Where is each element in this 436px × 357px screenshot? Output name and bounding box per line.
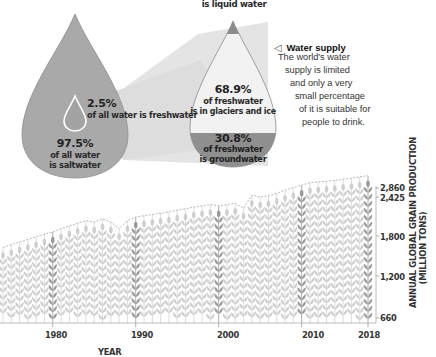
wheat-bar: [289, 188, 297, 323]
wheat-bar: [223, 205, 231, 323]
wheat-bar: [297, 185, 305, 323]
x-axis-label: YEAR: [98, 347, 121, 357]
wheat-bar: [32, 237, 40, 323]
y-axis-label-line1: ANNUAL GLOBAL GRAIN PRODUCTION: [408, 188, 418, 308]
wheat-bar: [24, 239, 32, 323]
saltwater-desc-2: is saltwater: [40, 161, 110, 171]
y-axis-label-line2: (MILLION TONS): [418, 188, 428, 308]
supply-line-1: The world's water: [278, 51, 350, 63]
y-tick-1200: 1,200: [380, 272, 405, 282]
x-tick-1980: 1980: [45, 330, 67, 340]
wheat-bar: [273, 193, 281, 323]
glaciers-desc-1: of freshwater: [186, 97, 280, 107]
wheat-bar: [281, 190, 289, 323]
x-tick-1990: 1990: [131, 330, 153, 340]
wheat-bar: [15, 242, 23, 323]
supply-line-2: supply is limited: [285, 64, 350, 76]
wheat-bar: [264, 196, 272, 323]
infographic-canvas: [0, 0, 436, 357]
grain-chart: [0, 176, 379, 327]
wheat-bar: [322, 181, 330, 323]
x-tick-2018: 2018: [358, 330, 380, 340]
wheat-bar: [339, 179, 347, 323]
wheat-bar: [98, 219, 106, 323]
supply-line-5: of it is suitable for: [299, 103, 371, 115]
wheat-bar: [181, 209, 189, 323]
wheat-bar: [165, 212, 173, 323]
wheat-bar: [57, 229, 65, 323]
wheat-bar: [190, 207, 198, 323]
wheat-bar: [173, 210, 181, 323]
wheat-bar: [140, 216, 148, 323]
wheat-bar: [306, 183, 314, 323]
y-axis-label: ANNUAL GLOBAL GRAIN PRODUCTION (MILLION …: [408, 188, 428, 308]
liquid-water-label: is liquid water: [196, 0, 272, 10]
wheat-bar: [73, 223, 81, 323]
wheat-bar: [107, 222, 115, 323]
supply-line-3: and only a very: [290, 77, 352, 89]
wheat-bar: [331, 180, 339, 323]
saltwater-pct: 97.5%: [40, 138, 110, 150]
wheat-bar: [49, 232, 57, 323]
wheat-bar: [239, 208, 247, 323]
glaciers-desc-2: is in glaciers and ice: [184, 107, 282, 117]
x-tick-2000: 2000: [217, 330, 239, 340]
y-tick-2860: 2,860: [380, 183, 405, 193]
wheat-bar: [115, 229, 123, 323]
supply-line-6: people to drink.: [302, 116, 365, 128]
wheat-bar: [206, 205, 214, 323]
wheat-bar: [256, 197, 264, 323]
wheat-bar: [40, 234, 48, 323]
x-tick-2010: 2010: [302, 330, 324, 340]
wheat-bar: [347, 178, 355, 323]
wheat-bar: [156, 213, 164, 323]
wheat-bar: [364, 176, 372, 323]
wheat-bar: [215, 206, 223, 323]
groundwater-desc-2: is groundwater: [190, 155, 276, 165]
wheat-bar: [82, 221, 90, 323]
wheat-bar: [132, 217, 140, 323]
wheat-bar: [7, 245, 15, 323]
wheat-bar: [231, 203, 239, 323]
y-tick-660: 660: [380, 313, 396, 323]
y-tick-2425: 2,425: [380, 193, 405, 203]
wheat-bar: [198, 206, 206, 323]
freshwater-pct: 2.5%: [87, 98, 116, 110]
wheat-bar: [314, 182, 322, 323]
wheat-bar: [90, 222, 98, 323]
wheat-bar: [65, 226, 73, 323]
glaciers-pct: 68.9%: [190, 84, 276, 96]
wheat-bar: [356, 177, 364, 323]
y-tick-1800: 1,800: [380, 232, 405, 242]
wheat-bar: [248, 195, 256, 323]
wheat-bar: [0, 247, 7, 323]
freshwater-desc: of all water is freshwater: [87, 111, 197, 121]
supply-line-4: small percentage: [295, 90, 365, 102]
wheat-bar: [123, 221, 131, 323]
wheat-bar: [148, 215, 156, 323]
